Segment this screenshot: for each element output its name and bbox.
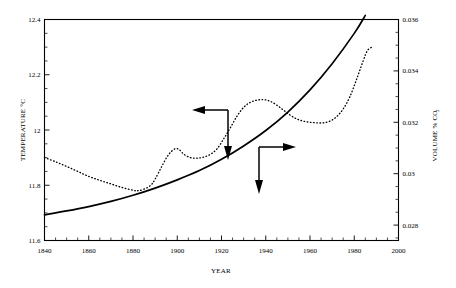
x-axis-title: YEAR: [211, 267, 231, 275]
x-tick-label: 1920: [215, 247, 230, 255]
y-tick-label: 12.4: [28, 16, 41, 24]
x-tick-label: 1980: [347, 247, 362, 255]
x-tick-label: 1940: [259, 247, 274, 255]
y2-tick-label: 0.032: [403, 119, 419, 127]
x-tick-label: 1900: [170, 247, 185, 255]
y-tick-label: 12: [34, 127, 42, 135]
y-tick-label: 12.2: [28, 71, 41, 79]
x-tick-label: 1840: [38, 247, 53, 255]
chart-figure: 18401860188019001920194019601980200012.4…: [0, 0, 456, 288]
x-tick-label: 2000: [392, 247, 407, 255]
x-tick-label: 1880: [126, 247, 141, 255]
y2-axis-title-main: VOLUME % CO: [431, 110, 439, 161]
y2-tick-label: 0.03: [403, 170, 416, 178]
y2-tick-label: 0.028: [403, 222, 419, 230]
x-tick-label: 1860: [82, 247, 97, 255]
y2-tick-label: 0.036: [403, 16, 419, 24]
y-axis-title: TEMPERATURE °C: [19, 99, 27, 161]
x-tick-label: 1960: [303, 247, 318, 255]
y2-tick-label: 0.034: [403, 67, 419, 75]
chart-container: 18401860188019001920194019601980200012.4…: [0, 0, 456, 288]
y-tick-label: 11.6: [29, 237, 41, 245]
y2-axis-title: VOLUME % CO 2: [431, 109, 440, 162]
y-tick-label: 11.8: [29, 182, 41, 190]
